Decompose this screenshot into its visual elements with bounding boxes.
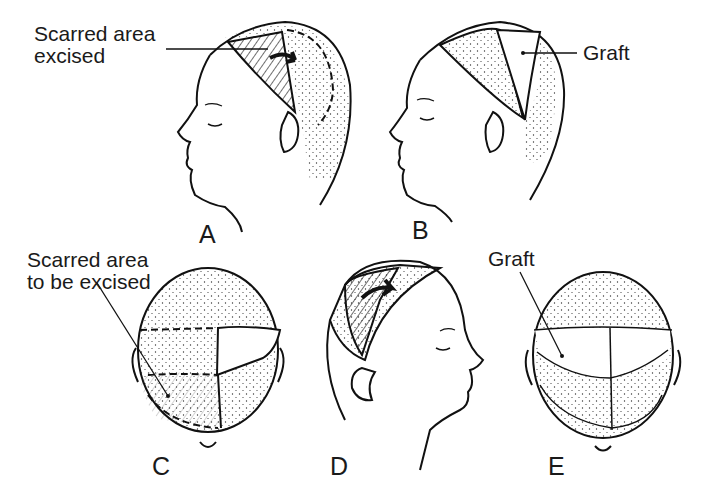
callout-c-line1: Scarred area — [27, 248, 148, 271]
panel-letter-b: B — [412, 216, 429, 245]
callout-b-line1: Graft — [583, 41, 630, 64]
panel-letter-c: C — [152, 452, 170, 481]
panel-d-head — [327, 261, 483, 470]
panel-a-head — [178, 22, 351, 232]
panel-letter-e: E — [548, 452, 565, 481]
callout-e-line1: Graft — [488, 247, 535, 270]
panel-b-head — [390, 22, 564, 222]
panel-letter-d: D — [330, 452, 348, 481]
callout-a-line1: Scarred area — [34, 22, 155, 45]
panel-e-head — [526, 272, 681, 451]
panel-letter-a: A — [199, 220, 216, 249]
callout-c-line2: to be excised — [27, 270, 151, 293]
callout-a-line2: excised — [34, 44, 105, 67]
panel-c-head — [132, 268, 283, 447]
